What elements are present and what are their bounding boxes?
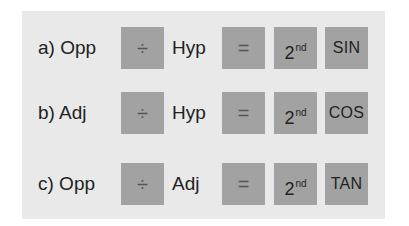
second-key: 2nd: [274, 163, 317, 205]
second-key-sup: nd: [295, 107, 306, 118]
divide-key: ÷: [121, 163, 164, 205]
trig-key-sequence-panel: a) Opp ÷ Hyp = 2nd SIN b) Adj ÷ Hyp = 2n…: [22, 11, 385, 219]
second-key: 2nd: [274, 92, 317, 134]
denominator-word: Adj: [172, 163, 199, 205]
row-cos: b) Adj ÷ Hyp = 2nd COS: [22, 92, 385, 134]
second-key-base: 2: [284, 179, 294, 199]
second-key-sup: nd: [295, 178, 306, 189]
equals-key: =: [222, 27, 265, 69]
second-key: 2nd: [274, 27, 317, 69]
second-key-base: 2: [284, 108, 294, 128]
denominator-word: Hyp: [172, 92, 206, 134]
cos-key: COS: [325, 92, 368, 134]
row-label: b) Adj: [38, 92, 87, 134]
tan-key: TAN: [325, 163, 368, 205]
row-label: a) Opp: [38, 27, 96, 69]
row-tan: c) Opp ÷ Adj = 2nd TAN: [22, 163, 385, 205]
denominator-word: Hyp: [172, 27, 206, 69]
row-label: c) Opp: [38, 163, 95, 205]
equals-key: =: [222, 92, 265, 134]
row-sin: a) Opp ÷ Hyp = 2nd SIN: [22, 27, 385, 69]
equals-key: =: [222, 163, 265, 205]
second-key-sup: nd: [295, 42, 306, 53]
divide-key: ÷: [121, 27, 164, 69]
sin-key: SIN: [325, 27, 368, 69]
second-key-base: 2: [284, 43, 294, 63]
divide-key: ÷: [121, 92, 164, 134]
